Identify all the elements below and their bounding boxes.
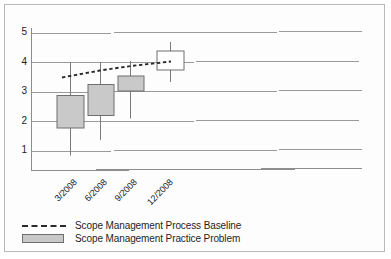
gridlines xyxy=(31,32,362,152)
box-3-2008 xyxy=(57,96,84,129)
box-12-2008 xyxy=(157,51,184,70)
legend-label-practice-problem: Scope Management Practice Problem xyxy=(75,233,240,245)
gridline-1 xyxy=(31,150,362,152)
gridline-5 xyxy=(31,32,362,34)
candlestick-9-2008 xyxy=(118,61,144,119)
box-9-2008 xyxy=(118,76,144,91)
gridline-3 xyxy=(31,91,362,93)
legend-label-baseline: Scope Management Process Baseline xyxy=(75,220,241,232)
legend-item-practice-problem: Scope Management Practice Problem xyxy=(22,232,272,245)
gridline-4 xyxy=(31,61,362,63)
y-tick-label-5: 5 xyxy=(11,26,27,37)
candlestick-6-2008 xyxy=(88,62,114,140)
chart-legend: Scope Management Process Baseline Scope … xyxy=(22,219,272,245)
y-tick-label-3: 3 xyxy=(11,85,27,96)
y-tick-label-2: 2 xyxy=(11,115,27,126)
legend-key-gray-swatch xyxy=(22,233,66,244)
y-tick-label-1: 1 xyxy=(11,144,27,155)
legend-key-dashed-line xyxy=(22,220,66,231)
box-6-2008 xyxy=(88,85,114,116)
process-baseline-line xyxy=(62,62,171,78)
legend-item-baseline: Scope Management Process Baseline xyxy=(22,219,272,232)
chart-figure: 5 4 3 2 1 3/2008 6/2008 9/2008 12/2008 S… xyxy=(0,0,391,259)
x-axis-line xyxy=(31,169,362,171)
y-tick-label-4: 4 xyxy=(11,56,27,67)
